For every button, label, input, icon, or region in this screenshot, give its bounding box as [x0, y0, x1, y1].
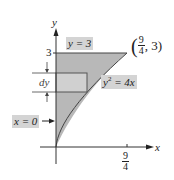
point-rest: , 3) [145, 38, 162, 53]
x-axis-label: x [155, 142, 160, 153]
y-axis-label: y [52, 17, 57, 28]
curve-rhs: = 4x [111, 76, 134, 88]
dy-arrowhead-down [45, 69, 49, 73]
x-axis-arrowhead [146, 145, 154, 150]
point-open-paren: ( [131, 35, 138, 57]
label-point: (94, 3) [131, 35, 162, 56]
x-tick-label: 9 4 [122, 151, 129, 172]
y-axis-arrowhead [54, 28, 59, 36]
label-dy: dy [39, 77, 49, 88]
diagram-canvas [0, 0, 174, 180]
point-den: 4 [139, 46, 144, 56]
shaded-region [56, 53, 127, 147]
label-parabola: y2 = 4x [101, 75, 137, 89]
dy-strip [56, 73, 87, 92]
label-y-equals-3: y = 3 [66, 37, 93, 50]
label-x-equals-0: x = 0 [12, 115, 39, 128]
dy-arrowhead-up [45, 92, 49, 96]
x-tick-den: 4 [123, 162, 128, 172]
y-tick-label: 3 [46, 47, 52, 58]
x0-arrowhead [49, 119, 55, 124]
